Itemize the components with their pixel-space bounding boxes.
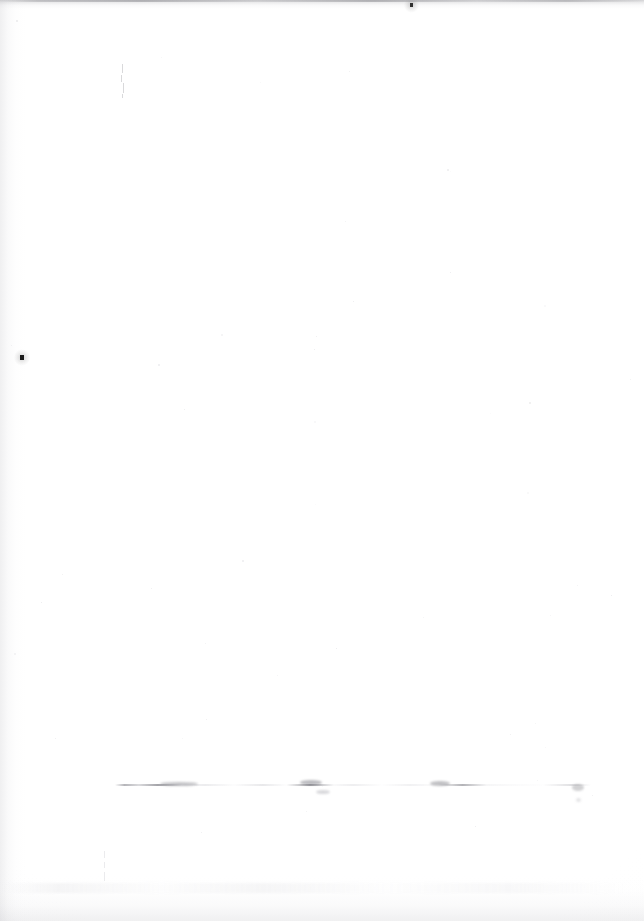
scanned-page (0, 0, 644, 921)
page-text-content (0, 0, 644, 921)
